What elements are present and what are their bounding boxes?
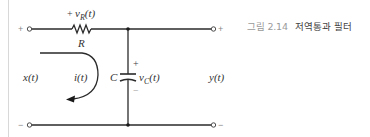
input-minus-sign: −	[18, 120, 23, 130]
output-minus-sign: −	[218, 120, 223, 130]
output-label: y(t)	[208, 71, 225, 84]
input-plus-sign: +	[18, 24, 23, 34]
figure-title: 저역통과 필터	[295, 21, 352, 32]
output-terminal-top	[211, 27, 215, 31]
resistor-label: R	[77, 37, 85, 49]
input-label: x(t)	[22, 71, 39, 84]
resistor-symbol	[72, 25, 91, 33]
input-terminal-bottom	[27, 123, 31, 127]
capacitor-label: C	[110, 71, 118, 83]
resistor-voltage-plus: +	[67, 8, 73, 19]
output-terminal-bottom	[211, 123, 215, 127]
input-terminal-top	[27, 27, 31, 31]
node-dot-bottom	[126, 123, 130, 127]
capacitor-voltage-minus: −	[133, 85, 139, 96]
capacitor-voltage-label: vC(t)	[139, 71, 160, 86]
output-plus-sign: +	[218, 24, 223, 34]
figure-number: 그림 2.14	[247, 21, 288, 32]
current-arrowhead	[66, 96, 75, 103]
capacitor-voltage-plus: +	[133, 58, 139, 69]
current-arrow	[40, 53, 98, 99]
current-label: i(t)	[74, 71, 88, 84]
node-dot-top	[126, 27, 130, 31]
resistor-voltage-label: vR(t)	[75, 7, 96, 22]
figure-caption: 그림 2.14저역통과 필터	[247, 19, 352, 33]
